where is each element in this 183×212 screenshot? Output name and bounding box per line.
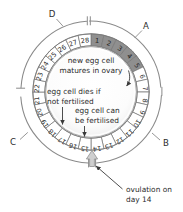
ovulation-leader-line bbox=[96, 166, 123, 189]
leader-d bbox=[57, 19, 64, 26]
leader-a bbox=[135, 31, 142, 39]
day-label-1: 1 bbox=[95, 37, 100, 45]
annotation-new-egg-line1: new egg cell bbox=[68, 56, 115, 65]
outer-label-d: D bbox=[49, 9, 56, 19]
outer-label-a: A bbox=[143, 21, 149, 31]
day-label-7: 7 bbox=[141, 86, 149, 91]
diagram-canvas: A B C D 12345678910111213141516171819202… bbox=[0, 0, 183, 212]
leader-b bbox=[152, 133, 160, 140]
day-label-14: 14 bbox=[92, 144, 101, 153]
annotation-fertilised-line2: be fertilised bbox=[75, 116, 119, 125]
ovulation-label: ovulation on day 14 bbox=[126, 185, 172, 204]
day-label-28: 28 bbox=[80, 36, 89, 45]
annotation-dies-line1: egg cell dies if bbox=[47, 87, 101, 96]
outer-label-c: C bbox=[10, 137, 16, 147]
leader-c bbox=[20, 132, 28, 139]
annotation-new-egg-line2: matures in ovary bbox=[60, 66, 123, 75]
outer-label-b: B bbox=[163, 138, 169, 148]
annotation-dies-line2: not fertilised bbox=[47, 97, 94, 106]
annotation-ovulation-line1: ovulation on bbox=[126, 185, 172, 194]
day-label-15: 15 bbox=[80, 144, 89, 153]
ovulation-leader bbox=[96, 166, 123, 189]
day-label-22: 22 bbox=[33, 84, 42, 93]
annotation-ovulation-line2: day 14 bbox=[126, 195, 152, 204]
annotation-fertilised-line1: egg cell can bbox=[75, 106, 120, 115]
